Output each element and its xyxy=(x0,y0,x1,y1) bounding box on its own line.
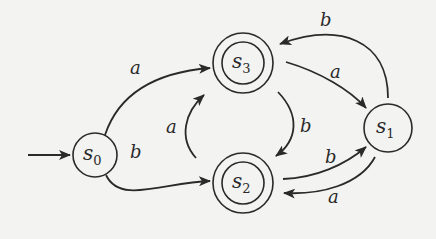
transition-s2-s1: b xyxy=(283,146,366,179)
svg-text:s0: s0 xyxy=(83,141,102,168)
state-diagram: s0 s3 s2 s1 a b a b b xyxy=(0,0,436,239)
svg-text:b: b xyxy=(325,146,337,167)
svg-text:b: b xyxy=(300,115,312,136)
svg-text:a: a xyxy=(328,186,339,207)
svg-text:s3: s3 xyxy=(232,49,251,76)
transition-s3-s1: a xyxy=(286,61,366,108)
transition-s1-s3: b xyxy=(280,9,388,98)
state-s1: s1 xyxy=(364,104,412,152)
transition-s3-s2: b xyxy=(276,92,312,156)
svg-text:a: a xyxy=(130,57,141,78)
state-s3: s3 xyxy=(213,33,273,93)
svg-text:b: b xyxy=(130,141,142,162)
state-s2: s2 xyxy=(213,153,273,213)
svg-text:s1: s1 xyxy=(376,114,395,141)
svg-text:b: b xyxy=(320,9,332,30)
svg-text:s2: s2 xyxy=(232,169,251,196)
transition-s0-s3: a xyxy=(105,57,210,135)
transition-s0-s2: b xyxy=(106,141,210,190)
svg-text:a: a xyxy=(166,116,177,137)
transition-s2-s3: a xyxy=(166,95,204,158)
svg-text:a: a xyxy=(330,61,341,82)
state-s0: s0 xyxy=(73,133,117,177)
